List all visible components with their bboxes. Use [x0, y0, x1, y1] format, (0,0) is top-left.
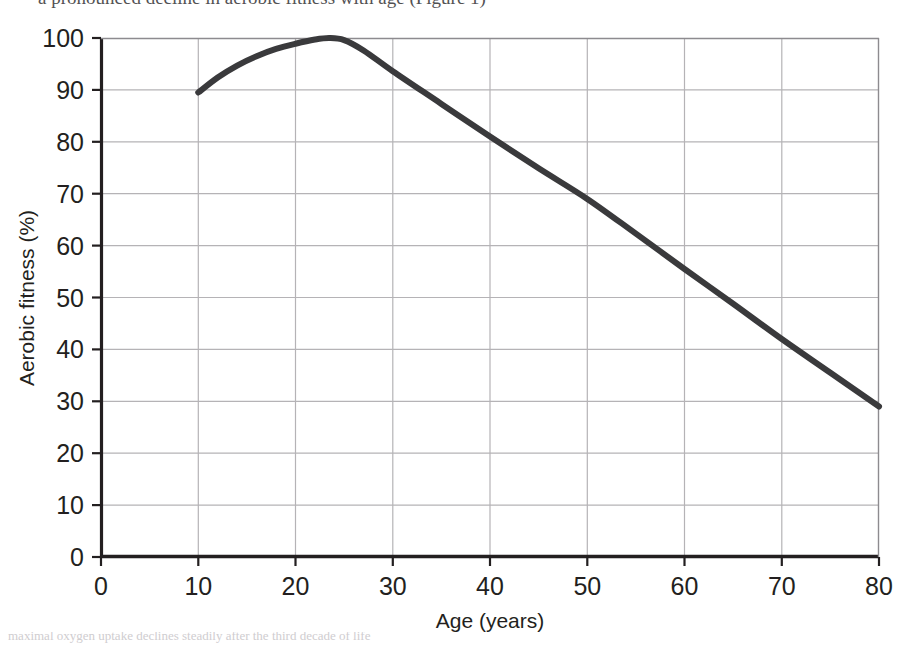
x-axis-tick-label: 80	[865, 572, 893, 600]
y-axis-tick-label: 60	[56, 232, 84, 260]
x-axis-tick-label: 20	[282, 572, 310, 600]
y-axis-title: Aerobic fitness (%)	[15, 210, 38, 386]
aerobic-fitness-line-chart: 0102030405060708090100 01020304050607080…	[0, 0, 916, 650]
y-axis-tick-label: 40	[56, 335, 84, 363]
aerobic-fitness-curve	[198, 38, 879, 406]
x-axis-tick-label: 10	[184, 572, 212, 600]
x-axis-title: Age (years)	[436, 609, 545, 632]
y-axis-tick-label: 90	[56, 76, 84, 104]
y-axis-tick-label: 100	[42, 24, 84, 52]
y-axis-tick-label: 80	[56, 128, 84, 156]
x-axis-tick-label: 30	[379, 572, 407, 600]
y-axis-tick-label: 30	[56, 387, 84, 415]
figure-container: a pronounced decline in aerobic fitness …	[0, 0, 916, 650]
y-axis-tick-labels: 0102030405060708090100	[42, 24, 84, 571]
y-axis-tick-label: 0	[70, 543, 84, 571]
x-axis-ticks	[101, 557, 879, 566]
x-axis-tick-label: 70	[768, 572, 796, 600]
x-axis-tick-label: 60	[671, 572, 699, 600]
y-axis-tick-label: 10	[56, 491, 84, 519]
grid-lines	[101, 38, 879, 557]
y-axis-ticks	[92, 38, 101, 557]
x-axis-tick-labels: 01020304050607080	[94, 572, 893, 600]
x-axis-tick-label: 0	[94, 572, 108, 600]
y-axis-tick-label: 50	[56, 284, 84, 312]
y-axis-tick-label: 20	[56, 439, 84, 467]
y-axis-tick-label: 70	[56, 180, 84, 208]
x-axis-tick-label: 50	[573, 572, 601, 600]
x-axis-tick-label: 40	[476, 572, 504, 600]
